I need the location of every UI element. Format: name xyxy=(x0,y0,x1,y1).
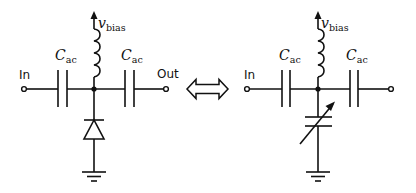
input-label: In xyxy=(244,68,255,82)
variable-capacitor xyxy=(300,89,335,172)
ground-icon xyxy=(306,172,330,181)
right-coupling-capacitor xyxy=(125,70,134,107)
left-cap-label: Cac xyxy=(55,47,77,65)
right-circuit: In vbias Cac Cac xyxy=(244,11,393,181)
input-terminal xyxy=(245,87,250,92)
tuning-arrow-icon xyxy=(326,102,336,112)
double-arrow-icon xyxy=(187,80,228,99)
circuit-diagram: In Out vbias Cac Cac xyxy=(0,0,416,193)
varactor-diode xyxy=(84,89,104,172)
left-coupling-capacitor xyxy=(58,70,67,107)
bias-label: vbias xyxy=(321,15,349,33)
left-cap-label: Cac xyxy=(279,47,301,65)
left-circuit: In Out vbias Cac Cac xyxy=(19,11,179,181)
right-coupling-capacitor xyxy=(350,70,358,107)
output-label: Out xyxy=(157,67,179,81)
ground-icon xyxy=(82,172,106,181)
right-cap-label: Cac xyxy=(121,47,143,65)
right-cap-label: Cac xyxy=(346,47,368,65)
input-terminal xyxy=(22,87,27,92)
left-coupling-capacitor xyxy=(282,70,290,107)
input-label: In xyxy=(19,68,30,82)
output-terminal xyxy=(389,87,394,92)
output-terminal xyxy=(164,87,169,92)
bias-arrow-icon xyxy=(91,11,98,19)
bias-label: vbias xyxy=(98,15,126,33)
